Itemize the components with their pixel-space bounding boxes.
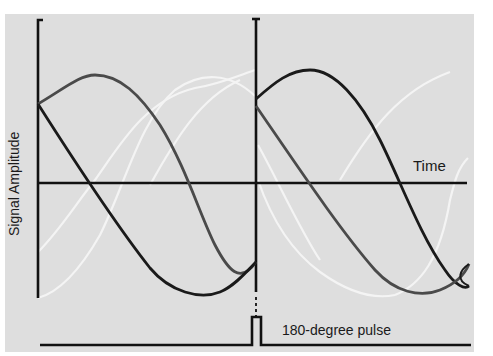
curves-segment-2 — [256, 70, 469, 293]
y-axis-left — [38, 20, 43, 298]
pulse-line — [40, 317, 471, 345]
x-axis-label: Time — [413, 157, 446, 174]
pulse-label: 180-degree pulse — [282, 322, 391, 338]
curves-segment-1 — [38, 75, 256, 295]
axes — [38, 19, 471, 345]
y-axis-label: Signal Amplitude — [6, 132, 22, 236]
signal-diagram — [0, 0, 493, 356]
